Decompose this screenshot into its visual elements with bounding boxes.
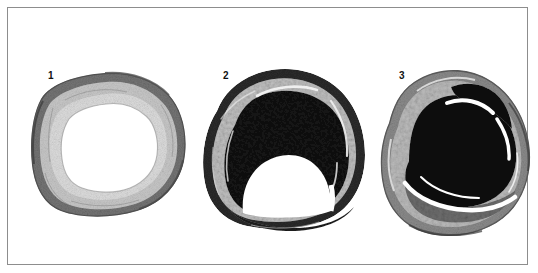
- specimen-1-label: 1: [48, 71, 54, 81]
- specimen-1: 1: [19, 61, 191, 221]
- specimen-3-image: [369, 57, 535, 237]
- specimen-1-lumen: [61, 104, 157, 193]
- specimen-1-image: [19, 61, 191, 221]
- specimen-2: 2: [191, 59, 369, 231]
- figure-frame-border: 1: [7, 7, 528, 265]
- specimen-3: 3: [369, 57, 535, 237]
- specimen-3-label: 3: [399, 71, 405, 81]
- figure-root: 1: [0, 0, 538, 273]
- specimen-2-label: 2: [223, 71, 229, 81]
- specimen-2-image: [191, 59, 369, 231]
